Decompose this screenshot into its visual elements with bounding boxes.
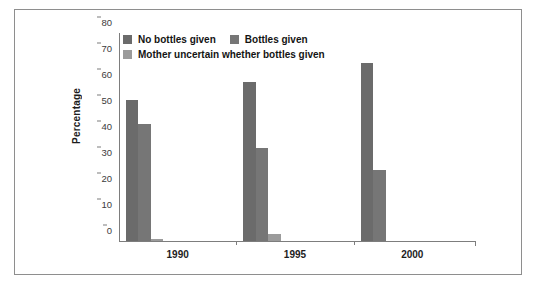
x-axis-tick-mark <box>236 241 237 245</box>
y-axis-tick-label: 40 <box>101 121 119 132</box>
x-axis-tick-mark <box>354 241 355 245</box>
y-axis-tick-label: 80 <box>101 17 119 28</box>
bar-group-1995: 1995 <box>236 33 353 241</box>
x-axis-end-tick <box>475 242 476 246</box>
y-axis-tick-mark <box>97 69 101 70</box>
y-axis-tick-label: 30 <box>101 147 119 158</box>
bar-1995-series-3 <box>268 234 280 241</box>
y-axis-tick-mark <box>103 225 107 226</box>
chart-figure: Percentage 01020304050607080 19901995200… <box>14 9 522 275</box>
y-axis-tick-mark <box>97 17 101 18</box>
bar-1995-series-2 <box>256 148 268 241</box>
legend-swatch-no-bottles-given <box>123 35 132 44</box>
y-axis-tick-label: 0 <box>107 225 119 236</box>
y-axis-tick-mark <box>97 95 101 96</box>
y-axis-tick-mark <box>97 199 101 200</box>
x-axis-tick-label-2000: 2000 <box>354 249 471 260</box>
legend-row-1: No bottles given Bottles given <box>123 32 339 47</box>
y-axis-tick-label: 20 <box>101 173 119 184</box>
legend-label-mother-uncertain: Mother uncertain whether bottles given <box>138 49 325 60</box>
x-axis-line <box>119 241 476 242</box>
bar-group-2000: 2000 <box>354 33 471 241</box>
bar-1990-series-3 <box>151 239 163 241</box>
y-axis-tick-label: 50 <box>101 95 119 106</box>
bar-1995-series-1 <box>243 82 255 241</box>
plot-area: 01020304050607080 199019952000 <box>119 33 471 241</box>
y-axis-tick-mark <box>97 43 101 44</box>
y-axis-tick-mark <box>97 173 101 174</box>
y-axis-tick-mark <box>97 147 101 148</box>
legend-label-bottles-given: Bottles given <box>245 34 308 45</box>
x-axis-tick-label-1990: 1990 <box>119 249 236 260</box>
legend-item-mother-uncertain: Mother uncertain whether bottles given <box>123 49 325 60</box>
bar-group-1990: 1990 <box>119 33 236 241</box>
legend-swatch-bottles-given <box>230 35 239 44</box>
legend-item-no-bottles-given: No bottles given <box>123 34 216 45</box>
legend-swatch-mother-uncertain <box>123 50 132 59</box>
legend-row-2: Mother uncertain whether bottles given <box>123 47 339 62</box>
y-axis-title: Percentage <box>71 88 85 144</box>
chart-legend: No bottles given Bottles given Mother un… <box>123 32 339 62</box>
bar-1990-series-2 <box>138 124 150 241</box>
bar-1990-series-1 <box>126 100 138 241</box>
legend-item-bottles-given: Bottles given <box>230 34 308 45</box>
legend-label-no-bottles-given: No bottles given <box>138 34 216 45</box>
bar-2000-series-1 <box>361 63 373 241</box>
y-axis-tick-label: 60 <box>101 69 119 80</box>
y-axis-tick-mark <box>97 121 101 122</box>
y-axis-tick-label: 70 <box>101 43 119 54</box>
x-axis-tick-label-1995: 1995 <box>236 249 353 260</box>
y-axis-tick-label: 10 <box>101 199 119 210</box>
bar-2000-series-2 <box>373 170 385 242</box>
